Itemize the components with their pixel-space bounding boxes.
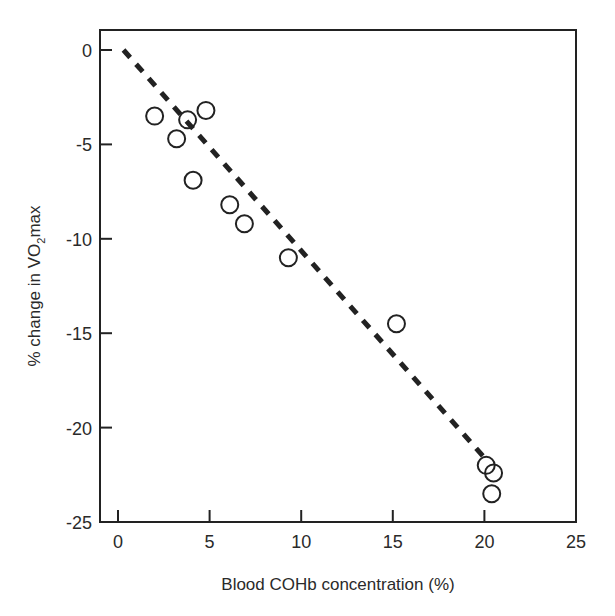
scatter-chart: 0-5-10-15-20-25 0510152025 Blood COHb co… [0, 0, 615, 616]
x-tick-label: 20 [474, 532, 494, 552]
plot-frame [100, 30, 576, 522]
x-tick-label: 10 [291, 532, 311, 552]
plot-border [100, 30, 576, 522]
y-tick-label: -10 [66, 230, 92, 250]
y-axis-label-suffix: max [25, 205, 44, 238]
y-tick-label: 0 [82, 41, 92, 61]
data-point [221, 196, 238, 213]
y-axis: 0-5-10-15-20-25 [66, 41, 112, 533]
x-tick-label: 5 [205, 532, 215, 552]
y-axis-label-v: V [25, 256, 44, 268]
data-points [146, 102, 502, 502]
regression-line [123, 50, 486, 460]
data-point [168, 130, 185, 147]
x-tick-label: 25 [566, 532, 586, 552]
dashed-fit-line [123, 50, 486, 460]
y-tick-label: -20 [66, 419, 92, 439]
y-axis-label-o: O [25, 244, 44, 257]
y-tick-label: -15 [66, 324, 92, 344]
data-point [146, 108, 163, 125]
x-tick-label: 15 [383, 532, 403, 552]
data-point [280, 249, 297, 266]
y-axis-label-prefix: % change in [25, 268, 44, 366]
data-point [197, 102, 214, 119]
x-axis-label: Blood COHb concentration (%) [221, 575, 454, 594]
data-point [236, 215, 253, 232]
data-point [483, 485, 500, 502]
y-axis-label: % change in VO2max [25, 205, 47, 367]
y-tick-label: -5 [76, 135, 92, 155]
data-point [185, 172, 202, 189]
data-point [388, 315, 405, 332]
x-axis: 0510152025 [113, 510, 586, 552]
y-tick-label: -25 [66, 513, 92, 533]
x-tick-label: 0 [113, 532, 123, 552]
